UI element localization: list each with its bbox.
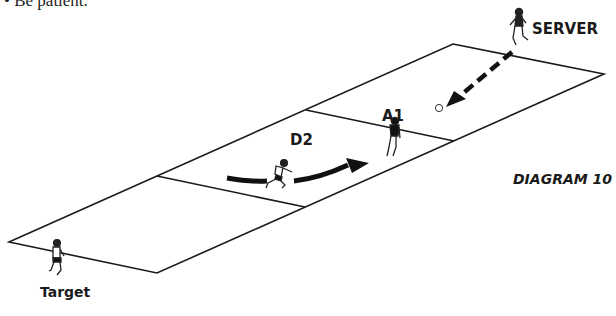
defender-d2-label: D2: [290, 131, 313, 149]
ball-icon: [435, 104, 442, 111]
field-outline: [9, 44, 604, 273]
server-label: SERVER: [532, 20, 598, 38]
server-player-icon: [510, 8, 528, 45]
field-diagram: [0, 0, 616, 316]
target-player-icon: [49, 240, 64, 275]
pass-arrow: [446, 52, 512, 107]
zone-divider-1: [306, 110, 454, 141]
target-label: Target: [40, 284, 90, 300]
run-arrow: [227, 158, 369, 181]
diagram-title: DIAGRAM 10: [513, 171, 612, 187]
attacker-a1-label: A1: [382, 107, 404, 125]
defender-d2-icon: [266, 160, 292, 188]
